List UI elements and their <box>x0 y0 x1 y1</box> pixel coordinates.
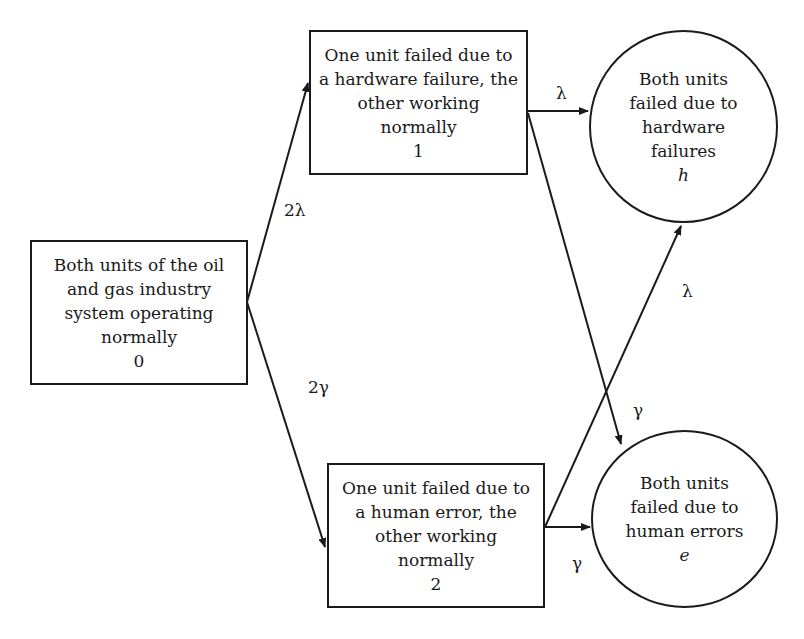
state-0-id: 0 <box>134 349 145 373</box>
state-2-line-2: a human error, the <box>355 500 517 524</box>
state-e-line-1: Both units <box>640 471 729 495</box>
state-e-line-2: failed due to <box>630 495 738 519</box>
edge-label-2-e: γ <box>572 553 582 573</box>
state-1-line-2: a hardware failure, the <box>319 67 518 91</box>
state-1-box: One unit failed due to a hardware failur… <box>309 30 528 175</box>
state-2-line-3: other working <box>375 524 497 548</box>
edge-label-1-e: γ <box>633 400 643 420</box>
state-0-line-3: system operating <box>64 301 213 325</box>
state-0-line-2: and gas industry <box>67 277 211 301</box>
state-h-line-3: hardware <box>642 115 725 139</box>
state-h-circle: Both units failed due to hardware failur… <box>589 30 778 223</box>
state-1-id: 1 <box>413 139 424 163</box>
state-e-id: e <box>679 543 689 567</box>
state-2-line-4: normally <box>398 548 474 572</box>
state-e-line-3: human errors <box>626 519 744 543</box>
state-1-line-4: normally <box>380 115 456 139</box>
edge-label-0-1: 2λ <box>284 200 306 220</box>
state-0-line-4: normally <box>101 325 177 349</box>
state-h-line-2: failed due to <box>629 91 737 115</box>
state-e-circle: Both units failed due to human errors e <box>591 430 778 608</box>
state-h-line-4: failures <box>651 139 716 163</box>
state-0-line-1: Both units of the oil <box>54 253 225 277</box>
state-1-line-3: other working <box>357 91 479 115</box>
state-2-id: 2 <box>431 572 442 596</box>
edge-0-to-2 <box>247 302 325 547</box>
edge-0-to-1 <box>247 83 308 302</box>
edge-label-2-h: λ <box>682 281 693 301</box>
state-1-line-1: One unit failed due to <box>325 43 513 67</box>
state-2-box: One unit failed due to a human error, th… <box>327 463 545 608</box>
state-0-box: Both units of the oil and gas industry s… <box>30 240 248 385</box>
state-h-line-1: Both units <box>639 67 728 91</box>
state-h-id: h <box>678 163 689 187</box>
state-2-line-1: One unit failed due to <box>342 476 530 500</box>
edge-label-0-2: 2γ <box>308 377 329 397</box>
edge-label-1-h: λ <box>556 83 567 103</box>
